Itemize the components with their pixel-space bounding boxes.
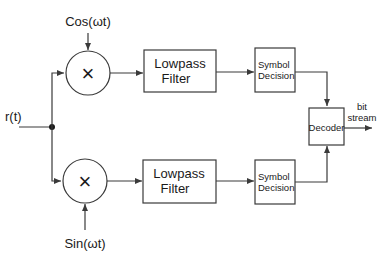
bottom-decision-to-decoder-arrow [295, 146, 327, 182]
top-decision-to-decoder-arrow [295, 72, 327, 106]
top-mixer-symbol: × [82, 61, 95, 86]
top-filter-label-line1: Lowpass [154, 56, 206, 71]
input-to-top-mixer-arrow [52, 73, 64, 127]
cos-carrier-label: Cos(ωt) [65, 14, 111, 29]
input-to-bottom-mixer-arrow [52, 127, 61, 181]
bottom-decision-label-line1: Symbol [258, 171, 290, 182]
input-label: r(t) [5, 109, 22, 124]
output-label-line1: bit [357, 101, 367, 112]
decoder-label: Decoder [309, 122, 345, 133]
top-decision-label-line1: Symbol [258, 59, 290, 70]
top-filter-label-line2: Filter [162, 71, 192, 86]
bottom-filter-label-line1: Lowpass [153, 166, 205, 181]
sin-carrier-label: Sin(ωt) [64, 236, 105, 251]
bottom-filter-label-line2: Filter [161, 181, 191, 196]
bottom-mixer-symbol: × [79, 169, 92, 194]
top-decision-label-line2: Decision [258, 70, 294, 81]
output-label-line2: stream [347, 112, 376, 123]
bottom-decision-label-line2: Decision [258, 182, 294, 193]
diagram-canvas: r(t) Cos(ωt) × Lowpass Filter Symbol Dec… [0, 0, 391, 268]
